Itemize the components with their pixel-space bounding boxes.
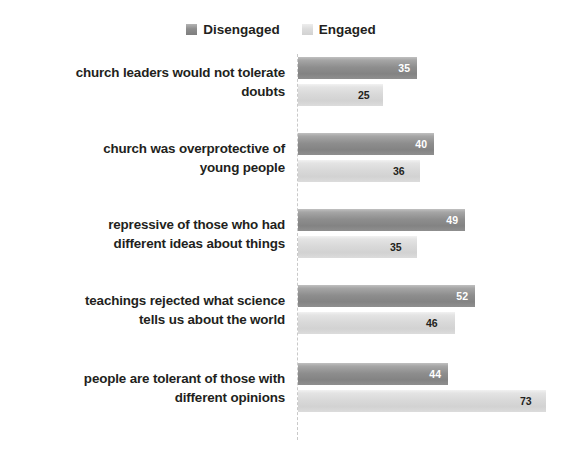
bar-engaged[interactable]: 36	[298, 160, 420, 182]
bar-value-disengaged: 44	[429, 363, 441, 385]
bar-disengaged[interactable]: 49	[298, 209, 465, 231]
category-label-line: tells us about the world	[139, 310, 285, 329]
bar-engaged[interactable]: 73	[298, 390, 546, 412]
category-label-line: different opinions	[175, 388, 285, 407]
bar-group: church was overprotective of young peopl…	[0, 128, 562, 188]
bar-disengaged[interactable]: 40	[298, 133, 434, 155]
bar-value-disengaged: 35	[398, 57, 410, 79]
bar-value-disengaged: 52	[456, 285, 468, 307]
bar-group-bars: 44 73	[298, 358, 562, 418]
legend-label-disengaged: Disengaged	[203, 22, 280, 37]
category-label: repressive of those who had different id…	[8, 204, 285, 264]
legend-swatch-disengaged-icon	[186, 24, 197, 35]
bar-group-bars: 49 35	[298, 204, 562, 264]
category-label: church was overprotective of young peopl…	[8, 128, 285, 188]
bar-group-bars: 35 25	[298, 52, 562, 112]
chart-legend: Disengaged Engaged	[0, 22, 562, 37]
category-label-line: doubts	[241, 82, 285, 101]
bar-value-engaged: 46	[426, 312, 438, 334]
bar-value-engaged: 36	[393, 160, 405, 182]
category-label-line: people are tolerant of those with	[84, 369, 285, 388]
plot-area: church leaders would not tolerate doubts…	[0, 52, 562, 449]
category-label-line: different ideas about things	[114, 234, 285, 253]
category-label-line: church leaders would not tolerate	[76, 63, 285, 82]
bar-group: repressive of those who had different id…	[0, 204, 562, 264]
bar-disengaged[interactable]: 52	[298, 285, 475, 307]
bar-chart: Disengaged Engaged church leaders would …	[0, 0, 562, 449]
bar-group-bars: 40 36	[298, 128, 562, 188]
category-label: teachings rejected what science tells us…	[8, 280, 285, 340]
bar-value-engaged: 25	[358, 84, 370, 106]
legend-item-engaged[interactable]: Engaged	[302, 22, 376, 37]
bar-group: church leaders would not tolerate doubts…	[0, 52, 562, 112]
bar-engaged[interactable]: 46	[298, 312, 455, 334]
bar-value-engaged: 35	[390, 236, 402, 258]
legend-swatch-engaged-icon	[302, 24, 313, 35]
category-label-line: young people	[200, 158, 285, 177]
bar-value-disengaged: 40	[415, 133, 427, 155]
legend-label-engaged: Engaged	[319, 22, 376, 37]
bar-group: people are tolerant of those with differ…	[0, 358, 562, 418]
bar-engaged[interactable]: 35	[298, 236, 417, 258]
bar-disengaged[interactable]: 44	[298, 363, 448, 385]
category-label: church leaders would not tolerate doubts	[8, 52, 285, 112]
bar-engaged[interactable]: 25	[298, 84, 383, 106]
category-label-line: teachings rejected what science	[85, 291, 285, 310]
bar-group-bars: 52 46	[298, 280, 562, 340]
category-label-line: repressive of those who had	[108, 215, 285, 234]
category-label-line: church was overprotective of	[103, 139, 285, 158]
category-label: people are tolerant of those with differ…	[8, 358, 285, 418]
bar-disengaged[interactable]: 35	[298, 57, 417, 79]
bar-value-engaged: 73	[520, 390, 532, 412]
bar-value-disengaged: 49	[446, 209, 458, 231]
bar-group: teachings rejected what science tells us…	[0, 280, 562, 340]
legend-item-disengaged[interactable]: Disengaged	[186, 22, 280, 37]
